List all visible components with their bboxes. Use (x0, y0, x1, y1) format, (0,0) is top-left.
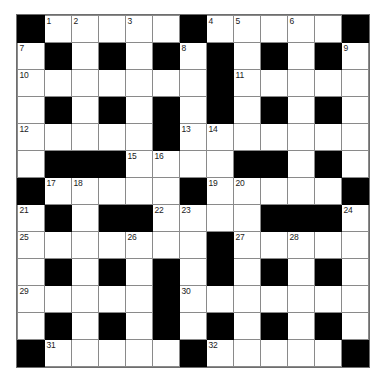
crossword-cell[interactable]: 15 (126, 151, 153, 178)
crossword-cell[interactable] (126, 340, 153, 367)
crossword-cell[interactable]: 6 (288, 16, 315, 43)
crossword-cell[interactable]: 22 (153, 205, 180, 232)
crossword-cell[interactable] (342, 259, 369, 286)
crossword-cell[interactable]: 2 (72, 16, 99, 43)
crossword-cell[interactable] (72, 70, 99, 97)
crossword-cell[interactable]: 1 (45, 16, 72, 43)
crossword-cell[interactable] (99, 340, 126, 367)
crossword-cell[interactable]: 10 (18, 70, 45, 97)
crossword-cell[interactable] (288, 259, 315, 286)
crossword-cell[interactable] (126, 259, 153, 286)
crossword-cell[interactable] (72, 124, 99, 151)
crossword-cell[interactable] (288, 340, 315, 367)
crossword-cell[interactable]: 26 (126, 232, 153, 259)
crossword-cell[interactable]: 32 (207, 340, 234, 367)
crossword-cell[interactable] (72, 43, 99, 70)
crossword-cell[interactable] (288, 178, 315, 205)
crossword-cell[interactable] (342, 313, 369, 340)
crossword-cell[interactable] (207, 286, 234, 313)
crossword-cell[interactable] (126, 313, 153, 340)
crossword-cell[interactable] (45, 232, 72, 259)
crossword-cell[interactable]: 30 (180, 286, 207, 313)
crossword-cell[interactable] (288, 43, 315, 70)
crossword-cell[interactable] (288, 70, 315, 97)
crossword-cell[interactable] (180, 70, 207, 97)
crossword-cell[interactable] (288, 313, 315, 340)
crossword-cell[interactable] (153, 340, 180, 367)
crossword-cell[interactable] (261, 70, 288, 97)
crossword-cell[interactable] (234, 259, 261, 286)
crossword-cell[interactable] (207, 205, 234, 232)
crossword-cell[interactable] (234, 124, 261, 151)
crossword-cell[interactable] (315, 286, 342, 313)
crossword-cell[interactable] (180, 232, 207, 259)
crossword-cell[interactable] (288, 124, 315, 151)
crossword-cell[interactable]: 4 (207, 16, 234, 43)
crossword-cell[interactable] (126, 70, 153, 97)
crossword-cell[interactable] (261, 286, 288, 313)
crossword-cell[interactable]: 9 (342, 43, 369, 70)
crossword-cell[interactable] (180, 151, 207, 178)
crossword-cell[interactable] (72, 313, 99, 340)
crossword-cell[interactable] (99, 124, 126, 151)
crossword-cell[interactable] (180, 97, 207, 124)
crossword-cell[interactable] (18, 151, 45, 178)
crossword-cell[interactable] (315, 340, 342, 367)
crossword-cell[interactable] (234, 313, 261, 340)
crossword-cell[interactable] (72, 232, 99, 259)
crossword-cell[interactable] (288, 151, 315, 178)
crossword-cell[interactable] (234, 43, 261, 70)
crossword-cell[interactable] (18, 97, 45, 124)
crossword-cell[interactable]: 19 (207, 178, 234, 205)
crossword-cell[interactable]: 28 (288, 232, 315, 259)
crossword-cell[interactable]: 24 (342, 205, 369, 232)
crossword-cell[interactable]: 29 (18, 286, 45, 313)
crossword-cell[interactable] (207, 151, 234, 178)
crossword-cell[interactable] (315, 16, 342, 43)
crossword-cell[interactable] (342, 232, 369, 259)
crossword-cell[interactable] (45, 286, 72, 313)
crossword-cell[interactable] (234, 205, 261, 232)
crossword-cell[interactable] (234, 97, 261, 124)
crossword-cell[interactable] (72, 259, 99, 286)
crossword-cell[interactable]: 8 (180, 43, 207, 70)
crossword-cell[interactable] (99, 286, 126, 313)
crossword-cell[interactable] (126, 43, 153, 70)
crossword-cell[interactable] (342, 151, 369, 178)
crossword-cell[interactable] (315, 178, 342, 205)
crossword-cell[interactable] (288, 286, 315, 313)
crossword-cell[interactable] (261, 232, 288, 259)
crossword-cell[interactable]: 18 (72, 178, 99, 205)
crossword-cell[interactable]: 11 (234, 70, 261, 97)
crossword-cell[interactable] (126, 97, 153, 124)
crossword-cell[interactable] (261, 124, 288, 151)
crossword-cell[interactable] (18, 259, 45, 286)
crossword-cell[interactable] (153, 16, 180, 43)
crossword-cell[interactable] (45, 124, 72, 151)
crossword-cell[interactable]: 14 (207, 124, 234, 151)
crossword-cell[interactable] (72, 340, 99, 367)
crossword-cell[interactable] (288, 97, 315, 124)
crossword-cell[interactable] (72, 286, 99, 313)
crossword-cell[interactable] (315, 232, 342, 259)
crossword-cell[interactable]: 17 (45, 178, 72, 205)
crossword-cell[interactable]: 12 (18, 124, 45, 151)
crossword-cell[interactable]: 7 (18, 43, 45, 70)
crossword-cell[interactable] (153, 178, 180, 205)
crossword-cell[interactable] (18, 313, 45, 340)
crossword-cell[interactable]: 31 (45, 340, 72, 367)
crossword-cell[interactable]: 23 (180, 205, 207, 232)
crossword-cell[interactable] (99, 232, 126, 259)
crossword-cell[interactable] (180, 259, 207, 286)
crossword-cell[interactable] (99, 178, 126, 205)
crossword-cell[interactable] (234, 286, 261, 313)
crossword-cell[interactable]: 5 (234, 16, 261, 43)
crossword-cell[interactable] (99, 16, 126, 43)
crossword-cell[interactable]: 13 (180, 124, 207, 151)
crossword-grid[interactable]: 1234567891011121314151617181920212223242… (17, 15, 369, 367)
crossword-cell[interactable] (234, 340, 261, 367)
crossword-cell[interactable] (180, 313, 207, 340)
crossword-cell[interactable] (315, 124, 342, 151)
crossword-cell[interactable]: 16 (153, 151, 180, 178)
crossword-cell[interactable]: 27 (234, 232, 261, 259)
